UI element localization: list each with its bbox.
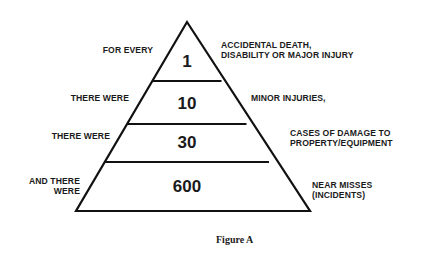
left-label-line: FOR EVERY	[103, 45, 153, 55]
right-label-line: ACCIDENTAL DEATH,	[221, 40, 353, 50]
left-label-line: THERE WERE	[52, 131, 110, 141]
right-label-level-3: CASES OF DAMAGE TO PROPERTY/EQUIPMENT	[290, 128, 393, 148]
right-label-line: NEAR MISSES	[312, 180, 372, 190]
right-label-level-2: MINOR INJURIES,	[251, 93, 326, 103]
left-label-level-1: FOR EVERY	[103, 45, 153, 55]
count-level-2: 10	[147, 94, 227, 114]
pyramid-figure: FOR EVERY 1 ACCIDENTAL DEATH, DISABILITY…	[0, 0, 429, 254]
right-label-line: CASES OF DAMAGE TO	[290, 128, 393, 138]
right-label-level-1: ACCIDENTAL DEATH, DISABILITY OR MAJOR IN…	[221, 40, 353, 60]
right-label-line: MINOR INJURIES,	[251, 93, 326, 103]
left-label-line: AND THERE	[29, 176, 80, 186]
count-level-1: 1	[147, 52, 227, 72]
left-label-line: THERE WERE	[71, 93, 129, 103]
left-label-line: WERE	[29, 186, 80, 196]
left-label-level-4: AND THERE WERE	[29, 176, 80, 196]
count-level-3: 30	[147, 133, 227, 153]
figure-caption: Figure A	[216, 234, 253, 245]
right-label-level-4: NEAR MISSES (INCIDENTS)	[312, 180, 372, 200]
left-label-level-2: THERE WERE	[71, 93, 129, 103]
right-label-line: (INCIDENTS)	[312, 190, 372, 200]
right-label-line: DISABILITY OR MAJOR INJURY	[221, 50, 353, 60]
left-label-level-3: THERE WERE	[52, 131, 110, 141]
right-label-line: PROPERTY/EQUIPMENT	[290, 138, 393, 148]
count-level-4: 600	[147, 177, 227, 197]
pyramid-shape	[0, 0, 429, 254]
